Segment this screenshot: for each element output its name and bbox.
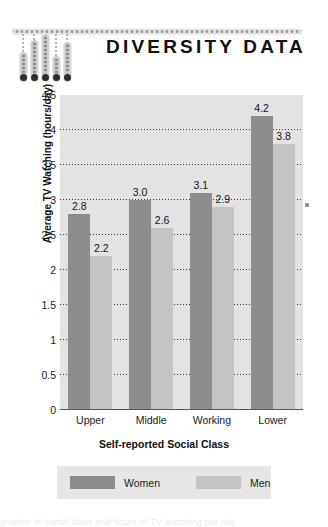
bar-women-lower <box>251 116 273 410</box>
y-tick-label: 4.5 <box>16 89 56 101</box>
bar-value-label: 3.1 <box>194 179 209 191</box>
bar-value-label: 2.8 <box>72 200 87 212</box>
legend-swatch-women <box>70 476 115 489</box>
y-tick-label: 1.5 <box>16 299 56 311</box>
bar-value-label: 2.9 <box>216 193 231 205</box>
x-tick-label-middle: Middle <box>136 414 167 426</box>
y-tick-label: 4 <box>16 124 56 136</box>
bar-men-lower <box>273 144 295 410</box>
bar-value-label: 2.2 <box>94 242 109 254</box>
bar-chart: Average TV Watching (hours/day) 00.511.5… <box>0 0 328 527</box>
bar-men-upper <box>90 256 112 410</box>
x-axis-title: Self-reported Social Class <box>0 438 328 450</box>
y-tick-label: 2.5 <box>16 229 56 241</box>
legend-item-women: Women <box>70 476 160 489</box>
chart-legend: Women Men <box>57 466 271 499</box>
x-tick-label-upper: Upper <box>76 414 105 426</box>
bar-women-upper <box>68 214 90 410</box>
bar-value-label: 3.0 <box>133 186 148 198</box>
legend-label-women: Women <box>124 477 160 489</box>
bar-value-label: 4.2 <box>254 102 269 114</box>
bar-women-working <box>190 193 212 410</box>
y-tick-label: 2 <box>16 264 56 276</box>
y-tick-label: 3.5 <box>16 159 56 171</box>
y-tick-label: 3 <box>16 194 56 206</box>
y-tick-label: 1 <box>16 334 56 346</box>
y-tick-label: 0 <box>16 404 56 416</box>
bar-value-label: 2.6 <box>155 214 170 226</box>
legend-swatch-men <box>196 476 241 489</box>
stray-mark <box>305 203 309 207</box>
legend-item-men: Men <box>196 476 270 489</box>
bar-value-label: 3.8 <box>276 130 291 142</box>
x-tick-label-lower: Lower <box>258 414 287 426</box>
page-bleed-text: graphic of social class and hours of TV … <box>0 517 328 527</box>
y-tick-label: 0.5 <box>16 369 56 381</box>
x-tick-label-working: Working <box>193 414 231 426</box>
legend-label-men: Men <box>250 477 270 489</box>
bar-men-middle <box>151 228 173 410</box>
bar-women-middle <box>129 200 151 410</box>
bar-men-working <box>212 207 234 410</box>
x-axis-line <box>60 409 303 410</box>
